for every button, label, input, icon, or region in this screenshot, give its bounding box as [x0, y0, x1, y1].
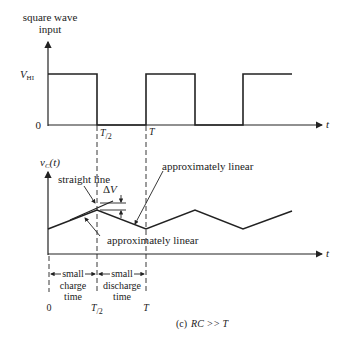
discharge-label-2: discharge — [103, 280, 142, 291]
square-wave-signal — [48, 74, 292, 125]
straight-line-label: straight line — [58, 173, 110, 185]
t-label-top: T — [149, 126, 156, 137]
charge-label-1: small — [62, 268, 84, 279]
approx-linear-bottom-label: approximately linear — [107, 234, 199, 246]
zero-label: 0 — [36, 119, 42, 131]
discharge-label-3: time — [113, 291, 131, 302]
approx-linear-bottom-pointer — [85, 218, 100, 236]
square-wave-ylabel-1: square wave — [23, 11, 78, 23]
time-interval-labels: small charge time small discharge time 0… — [47, 256, 151, 316]
square-wave-plot: square wave input t VHI 0 T/2 T — [20, 11, 330, 141]
square-wave-t-label: t — [326, 118, 330, 130]
rc-square-wave-diagram: square wave input t VHI 0 T/2 T vC(t) t … — [0, 0, 347, 348]
t-half-label-top: T/2 — [100, 127, 112, 141]
straight-line-tangent — [70, 201, 113, 220]
vc-t-label: t — [326, 247, 330, 259]
capacitor-voltage-plot: vC(t) t ΔV straight line approximately l… — [40, 156, 330, 259]
charge-label-2: charge — [60, 280, 87, 291]
figure-caption: (c)RC >> T — [176, 318, 229, 330]
t-half-label-bottom: T/2 — [91, 302, 103, 316]
zero-time-label: 0 — [47, 302, 52, 313]
charge-label-3: time — [64, 291, 82, 302]
approx-linear-top-label: approximately linear — [162, 160, 254, 172]
square-wave-ylabel-2: input — [39, 23, 62, 35]
t-label-bottom: T — [143, 302, 150, 313]
approx-linear-top-pointer — [135, 171, 163, 224]
vc-ylabel: vC(t) — [40, 156, 60, 170]
vhi-label: VHI — [20, 68, 35, 82]
vc-waveform — [48, 210, 292, 229]
straight-line-pointer — [84, 186, 95, 203]
discharge-label-1: small — [111, 268, 133, 279]
